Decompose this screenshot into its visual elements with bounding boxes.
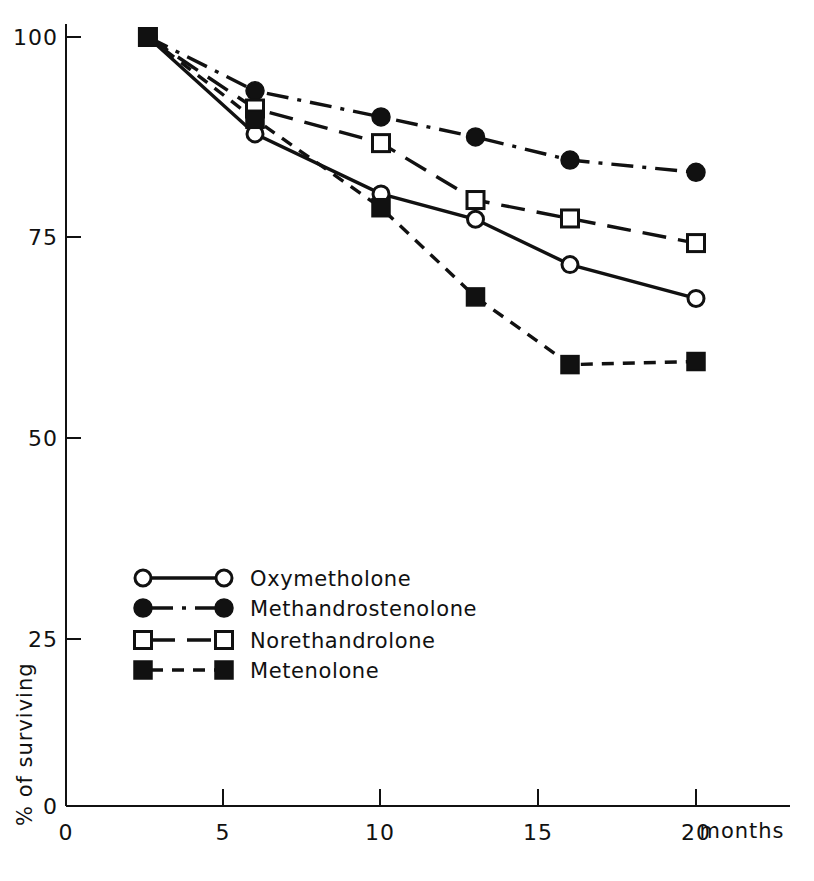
data-point-methandrostenolone-5 (687, 163, 705, 181)
legend-marker-right-norethandrolone (216, 632, 233, 649)
data-point-methandrostenolone-3 (467, 128, 485, 146)
y-tick-label-25: 25 (28, 627, 58, 652)
data-point-methandrostenolone-4 (561, 151, 579, 169)
x-tick-label-15: 15 (523, 820, 553, 845)
data-point-oxymetholone-5 (688, 290, 704, 306)
legend-item-methandrostenolone[interactable]: Methandrostenolone (134, 597, 477, 621)
legend-marker-left-metenolone (134, 661, 152, 679)
series-line-metenolone (148, 37, 696, 365)
legend-label-oxymetholone: Oxymetholone (250, 567, 411, 591)
y-tick-label-75: 75 (28, 225, 58, 250)
series-norethandrolone (139, 29, 704, 252)
series-metenolone (139, 28, 705, 374)
y-tick-label-100: 100 (13, 25, 58, 50)
data-point-norethandrolone-5 (688, 235, 705, 252)
data-point-metenolone-0 (139, 28, 157, 46)
legend-label-methandrostenolone: Methandrostenolone (250, 597, 477, 621)
legend-marker-right-methandrostenolone (215, 599, 233, 617)
data-point-norethandrolone-2 (373, 135, 390, 152)
x-tick-label-0: 0 (59, 820, 74, 845)
data-point-metenolone-2 (372, 199, 390, 217)
chart-canvas: 100 75 50 25 0 0 5 10 15 20 months % of … (0, 0, 814, 881)
data-point-methandrostenolone-2 (372, 108, 390, 126)
data-point-metenolone-5 (687, 353, 705, 371)
legend-label-metenolone: Metenolone (250, 659, 379, 683)
data-point-methandrostenolone-1 (246, 82, 264, 100)
legend-item-metenolone[interactable]: Metenolone (134, 659, 379, 683)
data-point-oxymetholone-4 (562, 257, 578, 273)
data-point-metenolone-4 (561, 356, 579, 374)
series-line-methandrostenolone (148, 37, 696, 172)
data-point-norethandrolone-4 (562, 210, 579, 227)
legend-marker-left-norethandrolone (135, 632, 152, 649)
y-tick-label-0: 0 (43, 794, 58, 819)
data-point-metenolone-1 (246, 110, 264, 128)
series-layer (139, 28, 705, 374)
data-point-metenolone-3 (467, 288, 485, 306)
legend-item-oxymetholone[interactable]: Oxymetholone (135, 567, 411, 591)
data-point-norethandrolone-3 (467, 192, 484, 209)
y-axis-ticks (66, 37, 81, 639)
legend-marker-left-methandrostenolone (134, 599, 152, 617)
legend-label-norethandrolone: Norethandrolone (250, 629, 436, 653)
y-tick-label-50: 50 (28, 426, 58, 451)
legend-marker-left-oxymetholone (135, 570, 151, 586)
survival-chart: 100 75 50 25 0 0 5 10 15 20 months % of … (0, 0, 814, 881)
legend-marker-right-oxymetholone (216, 570, 232, 586)
data-point-oxymetholone-3 (468, 211, 484, 227)
legend-item-norethandrolone[interactable]: Norethandrolone (135, 629, 436, 653)
x-axis-ticks (223, 789, 696, 806)
y-axis-title: % of surviving (13, 662, 37, 826)
x-axis-title: months (699, 819, 784, 843)
legend-marker-right-metenolone (215, 661, 233, 679)
chart-legend: OxymetholoneMethandrostenoloneNorethandr… (134, 567, 477, 683)
x-tick-label-5: 5 (216, 820, 231, 845)
series-line-norethandrolone (148, 37, 696, 243)
axes-group: 100 75 50 25 0 0 5 10 15 20 months % of … (13, 24, 790, 845)
x-tick-label-10: 10 (365, 820, 395, 845)
